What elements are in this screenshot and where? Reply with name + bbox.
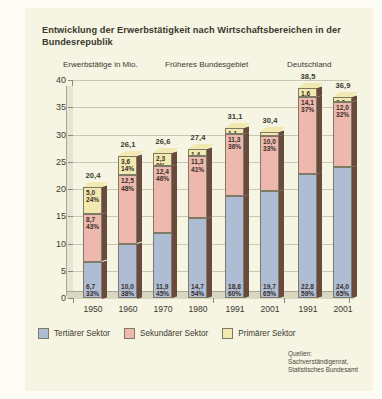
- y-axis-tick-mark: [68, 107, 73, 108]
- segment-percent-label: 37%: [301, 106, 316, 113]
- bar-segment[interactable]: 22,859%: [298, 174, 317, 298]
- y-axis-tick-mark: [68, 80, 73, 81]
- segment-value-label: 0,9: [336, 99, 351, 102]
- bar-segment[interactable]: 12,446%: [153, 166, 172, 234]
- bar-segment-side-face: [279, 135, 284, 191]
- bar-segment[interactable]: 1,45%: [188, 149, 207, 157]
- bar-segment[interactable]: 10,038%: [118, 244, 137, 299]
- bar-segment[interactable]: 14,754%: [188, 218, 207, 298]
- bar-segment[interactable]: 11,341%: [188, 156, 207, 218]
- bar-total-label: 36,9: [329, 81, 357, 90]
- segment-value-label: 1,6: [301, 90, 316, 97]
- bar-segment[interactable]: 14,137%: [298, 97, 317, 174]
- bar-segment-side-face: [172, 151, 177, 165]
- segment-percent-label: 33%: [263, 145, 278, 152]
- y-axis-tick-mark: [68, 189, 73, 190]
- segment-value-label: 3,6: [121, 158, 136, 165]
- bar-total-label: 20,4: [79, 171, 107, 180]
- group-header-deutschland: Deutschland: [287, 60, 331, 69]
- legend-label: Primärer Sektor: [238, 329, 295, 338]
- segment-percent-label: 65%: [336, 290, 351, 297]
- y-axis-tick-label: 10: [56, 239, 66, 249]
- segment-percent-label: 38%: [121, 290, 136, 297]
- source-line-2: Sachverständigenrat,: [288, 358, 358, 366]
- y-axis-tick-mark: [68, 135, 73, 136]
- bar-total-label: 26,6: [149, 137, 177, 146]
- bar-segment[interactable]: 12,548%: [118, 175, 137, 243]
- bar-segment-side-face: [172, 232, 177, 298]
- bar-segment-side-face: [317, 95, 322, 173]
- segment-value-label: 22,8: [301, 283, 316, 290]
- bar-segment-side-face: [244, 194, 249, 298]
- bar-segment[interactable]: 0,72%: [260, 132, 279, 136]
- bar-segment-side-face: [207, 147, 212, 156]
- y-axis-tick-mark: [68, 244, 73, 245]
- group-header-frueheres-bundesgebiet: Früheres Bundesgebiet: [165, 60, 248, 69]
- segment-value-label: 6,7: [86, 283, 101, 290]
- bar-segment[interactable]: 24,065%: [333, 167, 352, 298]
- y-axis-tick-label: 25: [56, 157, 66, 167]
- bar-segment[interactable]: 18,860%: [225, 196, 244, 298]
- bar-segment[interactable]: 3,614%: [118, 156, 137, 176]
- bar-segment-side-face: [352, 100, 357, 167]
- segment-value-label: 14,1: [301, 99, 316, 106]
- segment-value-label: 11,3: [191, 158, 206, 165]
- bar-segment[interactable]: 12,032%: [333, 102, 352, 167]
- segment-percent-label: 60%: [228, 290, 243, 297]
- legend-item[interactable]: Sekundärer Sektor: [124, 328, 208, 339]
- segment-percent-label: 48%: [121, 185, 136, 192]
- x-axis-tick-mark: [213, 298, 214, 303]
- legend-swatch: [222, 328, 233, 339]
- y-axis-tick-mark: [68, 271, 73, 272]
- segment-value-label: 1,4: [191, 151, 206, 157]
- segment-value-label: 1,1: [228, 130, 243, 134]
- legend-item[interactable]: Primärer Sektor: [222, 328, 295, 339]
- bar-segment[interactable]: 6,733%: [83, 262, 102, 299]
- segment-value-label: 12,5: [121, 177, 136, 184]
- bar-segment[interactable]: 11,336%: [225, 134, 244, 196]
- chart-figure: Entwicklung der Erwerbstätigkeit nach Wi…: [25, 8, 373, 391]
- bar-segment[interactable]: 1,13%: [225, 128, 244, 134]
- x-axis-label: 1970: [145, 304, 181, 314]
- bar-segment[interactable]: 5,024%: [83, 187, 102, 214]
- bar-segment-side-face: [137, 242, 142, 298]
- bar-segment-side-face: [207, 216, 212, 298]
- y-axis-tick-label: 30: [56, 130, 66, 140]
- segment-percent-label: 36%: [228, 143, 243, 150]
- segment-value-label: 2,3: [156, 155, 171, 162]
- segment-percent-label: 41%: [191, 166, 206, 173]
- segment-percent-label: 24%: [86, 196, 101, 203]
- x-axis-label: 1960: [110, 304, 146, 314]
- segment-value-label: 11,3: [228, 136, 243, 143]
- segment-percent-label: 65%: [263, 290, 278, 297]
- bar-total-label: 27,4: [184, 133, 212, 142]
- x-axis-label: 2001: [252, 304, 288, 314]
- legend-item[interactable]: Tertiärer Sektor: [38, 328, 110, 339]
- segment-value-label: 18,8: [228, 283, 243, 290]
- bar-segment[interactable]: 19,765%: [260, 191, 279, 298]
- segment-value-label: 14,7: [191, 283, 206, 290]
- y-axis-tick-label: 15: [56, 211, 66, 221]
- bar-segment-side-face: [352, 166, 357, 298]
- bar-segment[interactable]: 10,033%: [260, 136, 279, 191]
- y-axis-tick-mark: [68, 162, 73, 163]
- bar-segment-side-face: [102, 185, 107, 214]
- bar-segment[interactable]: 0,93%: [333, 97, 352, 102]
- bar-segment[interactable]: 1,64%: [298, 88, 317, 97]
- y-axis-3d-face: [66, 86, 73, 296]
- segment-value-label: 11,9: [156, 283, 171, 290]
- x-axis-label: 2001: [325, 304, 361, 314]
- bar-segment[interactable]: 2,39%: [153, 153, 172, 166]
- plot-area: 0510152025303540 6,733%8,743%5,024%20,41…: [73, 80, 349, 298]
- segment-value-label: 0,7: [263, 134, 278, 136]
- bar-segment-side-face: [137, 154, 142, 175]
- segment-percent-label: 54%: [191, 290, 206, 297]
- bar-segment[interactable]: 11,945%: [153, 233, 172, 298]
- chart-legend: Tertiärer SektorSekundärer SektorPrimäre…: [38, 328, 328, 339]
- bar-segment-side-face: [102, 212, 107, 261]
- group-header-units: Erwerbstätige in Mio.: [63, 60, 138, 69]
- bar-total-label: 30,4: [256, 116, 284, 125]
- bar-segment[interactable]: 8,743%: [83, 214, 102, 261]
- segment-percent-label: 59%: [301, 290, 316, 297]
- chart-title: Entwicklung der Erwerbstätigkeit nach Wi…: [42, 24, 362, 48]
